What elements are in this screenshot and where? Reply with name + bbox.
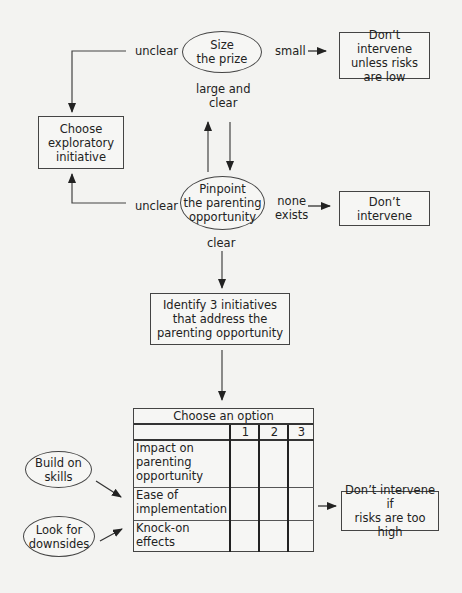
node-size-the-prize: Size the prize xyxy=(182,31,262,73)
node-dont-intervene-unless-low-risk: Don’t intervene unless risks are low xyxy=(339,32,430,79)
edge-pinpoint-unclear xyxy=(72,174,126,203)
node-choose-exploratory-initiative: Choose exploratory initiative xyxy=(38,116,124,169)
node-pinpoint-parenting-opportunity: Pinpoint the parenting opportunity xyxy=(180,176,265,230)
criterion-ease: Ease of implementation xyxy=(134,488,230,520)
option-column-2: 2 xyxy=(260,425,289,439)
node-dont-intervene: Don’t intervene xyxy=(339,191,430,226)
edge-label-unclear-top: unclear xyxy=(135,44,178,58)
option-table-title: Choose an option xyxy=(134,409,313,425)
edge-label-clear: clear xyxy=(207,236,235,250)
node-dont-intervene-high-risk: Don’t intervene if risks are too high xyxy=(341,491,439,531)
option-table: Choose an option 1 2 3 Impact on parenti… xyxy=(133,408,314,552)
option-column-1: 1 xyxy=(231,425,260,439)
edge-downsides-to-table xyxy=(100,529,122,541)
edge-label-large-and-clear: large and clear xyxy=(196,82,250,110)
edge-label-small: small xyxy=(275,44,306,58)
node-look-for-downsides: Look for downsides xyxy=(23,516,95,557)
option-column-3: 3 xyxy=(289,425,314,439)
criterion-knock-on: Knock-on effects xyxy=(134,521,230,551)
criterion-impact: Impact on parenting opportunity xyxy=(134,441,230,487)
node-identify-3-initiatives: Identify 3 initiatives that address the … xyxy=(150,293,290,345)
edge-label-unclear-bottom: unclear xyxy=(135,199,178,213)
edge-prize-unclear xyxy=(72,51,126,112)
edge-skills-to-table xyxy=(96,481,121,497)
node-build-on-skills: Build on skills xyxy=(25,451,92,488)
edge-label-none-exists: none exists xyxy=(275,194,308,222)
